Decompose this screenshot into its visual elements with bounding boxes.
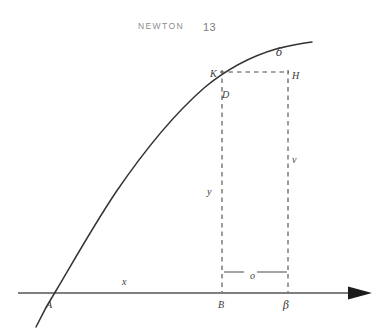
- x-axis-arrowhead: [348, 287, 372, 300]
- ordinate-label-v: v: [292, 155, 296, 165]
- point-label-k: K: [210, 69, 217, 79]
- point-label-d: D: [222, 90, 229, 100]
- point-label-a: A: [46, 300, 52, 310]
- point-label-b: B: [218, 300, 224, 310]
- increment-label-o: o: [250, 271, 255, 281]
- abscissa-label-x: x: [122, 277, 126, 287]
- newton-diagram-canvas: [0, 0, 384, 333]
- page-header-title: NEWTON: [138, 21, 184, 31]
- page-number: 13: [203, 21, 216, 33]
- point-label-beta: β: [283, 300, 289, 311]
- curve-end-label-delta: δ: [276, 47, 282, 58]
- curve-path: [36, 42, 312, 327]
- point-label-h: H: [292, 71, 299, 81]
- ordinate-label-y: y: [207, 187, 211, 197]
